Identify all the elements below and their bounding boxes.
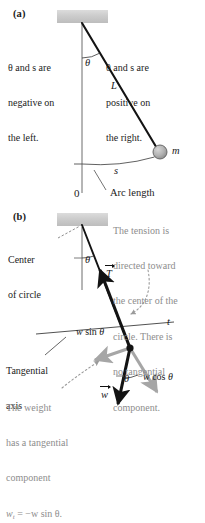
weight-note-line-3: component — [6, 472, 68, 484]
tangent-axis-symbol: t — [167, 316, 170, 328]
weight-note-line-1: The weight — [6, 402, 68, 414]
panel-b: (b) Center of circle The tension is dire… — [0, 206, 205, 446]
arc-length-label-a: Arc length — [110, 187, 155, 199]
arc-symbol-a: s — [114, 165, 118, 177]
tangential-axis-line-1: Tangential — [6, 365, 48, 377]
tension-note-line-4: circle. There is — [113, 331, 178, 343]
ceiling-block-a — [57, 10, 108, 23]
panel-a: (a) θ and s are negative on the left. θ … — [0, 0, 205, 210]
pendulum-bob-a — [153, 145, 167, 159]
origin-label-a: 0 — [74, 187, 80, 200]
panel-a-tag: (a) — [13, 8, 26, 20]
weight-note-line-2: has a tangential — [6, 437, 68, 449]
tension-label-b: T — [106, 268, 112, 280]
tangential-axis-leader-b — [45, 337, 66, 355]
panel-a-left-note: θ and s are negative on the left. — [8, 38, 54, 168]
weight-vector-label: w — [101, 389, 108, 401]
length-label-a: L — [111, 80, 117, 92]
w-cos-theta-label: w cos θ — [143, 371, 173, 383]
right-note-line-2: positive on — [106, 97, 150, 109]
weight-vector-label-text: w — [101, 389, 108, 401]
right-note-line-1: θ and s are — [106, 62, 150, 74]
weight-formula-rest: = −w sin θ. — [15, 508, 62, 519]
weight-formula-symbol: w — [6, 508, 13, 519]
ceiling-block-b — [57, 213, 108, 226]
panel-b-tag: (b) — [13, 211, 26, 223]
panel-a-right-note: θ and s are positive on the right. — [106, 38, 150, 168]
right-note-line-3: the right. — [106, 132, 150, 144]
mass-label-a: m — [172, 145, 180, 157]
weight-note: The weight has a tangential component wt… — [6, 378, 68, 523]
w-sin-theta-label: w sin θ — [76, 326, 104, 338]
center-of-circle-leader-b — [58, 226, 80, 238]
tension-note-line-1: The tension is — [113, 225, 178, 237]
center-of-circle-label: Center of circle — [8, 230, 41, 324]
weight-formula: wt = −w sin θ. — [6, 508, 68, 521]
left-note-line-3: the left. — [8, 132, 54, 144]
left-note-line-1: θ and s are — [8, 62, 54, 74]
center-of-circle-line-2: of circle — [8, 289, 41, 301]
center-of-circle-line-1: Center — [8, 254, 41, 266]
tension-note-line-6: component. — [113, 402, 178, 414]
tension-note-line-2: directed toward — [113, 260, 178, 272]
theta-label-b-bottom: θ — [124, 373, 129, 385]
arc-length-leader-a — [94, 170, 106, 190]
left-note-line-2: negative on — [8, 97, 54, 109]
tension-note-line-3: the center of the — [113, 295, 178, 307]
tension-vector-label-text: T — [106, 268, 112, 280]
theta-label-b-top: θ — [85, 254, 90, 266]
theta-label-a: θ — [85, 57, 90, 69]
